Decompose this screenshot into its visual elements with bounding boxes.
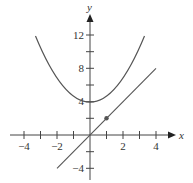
tangency-point bbox=[104, 116, 108, 120]
x-tick-label-neg2: −2 bbox=[51, 140, 63, 152]
y-tick-label-neg4: −4 bbox=[72, 162, 84, 174]
x-tick-label-4: 4 bbox=[153, 140, 159, 152]
y-axis-arrow-icon bbox=[87, 14, 94, 22]
y-tick-label-12: 12 bbox=[73, 29, 84, 41]
y-axis-label: y bbox=[86, 1, 92, 13]
function-graph: −4 −2 2 4 12 8 4 −4 x y bbox=[0, 0, 193, 183]
y-tick-label-8: 8 bbox=[79, 62, 85, 74]
x-tick-label-2: 2 bbox=[120, 140, 126, 152]
x-axis-label: x bbox=[178, 129, 184, 141]
x-axis-arrow-icon bbox=[168, 132, 176, 139]
x-tick-label-neg4: −4 bbox=[18, 140, 30, 152]
